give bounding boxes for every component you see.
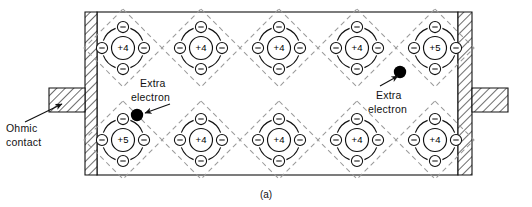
figure-caption: (a) bbox=[260, 189, 272, 200]
atom-core-charge: +4 bbox=[274, 134, 285, 145]
atom-core-charge: +4 bbox=[196, 134, 207, 145]
atom-core-charge: +5 bbox=[430, 42, 441, 53]
atom-core-charge: +4 bbox=[274, 42, 285, 53]
extra-electron-left-label-line2: electron bbox=[131, 91, 170, 103]
extra-electron-left-label-line1: Extra bbox=[140, 77, 166, 89]
atom-core-charge: +5 bbox=[118, 134, 129, 145]
atom-core-charge: +4 bbox=[430, 134, 441, 145]
extra-electron-top-right bbox=[394, 66, 406, 78]
extra-electron-right-label-line2: electron bbox=[368, 103, 407, 115]
semiconductor-lattice-figure: +4+4+4+4+5+5+4+4+4+4 Ohmic contact Extra… bbox=[0, 0, 532, 207]
atom-core-charge: +4 bbox=[352, 42, 363, 53]
ohmic-contact-label-line1: Ohmic bbox=[6, 122, 37, 134]
atom-core-charge: +4 bbox=[118, 42, 129, 53]
extra-electron-bottom-left bbox=[131, 109, 143, 121]
atom-core-charge: +4 bbox=[352, 134, 363, 145]
extra-electron-right-label-line1: Extra bbox=[376, 89, 402, 101]
ohmic-contact-label-line2: contact bbox=[6, 136, 41, 148]
atom-core-charge: +4 bbox=[196, 42, 207, 53]
